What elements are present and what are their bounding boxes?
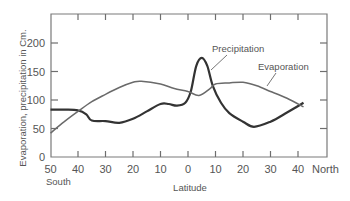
x-end-label-south: South — [46, 176, 71, 187]
axis-ticks — [51, 14, 327, 157]
precipitation-annotation: Precipitation — [212, 43, 264, 54]
y-axis-title: Evaporation, precipitation in Cm. — [17, 29, 28, 166]
x-end-label-north: North — [312, 163, 339, 175]
x-tick-label: 20 — [127, 163, 139, 175]
series-annotations: PrecipitationEvaporation — [211, 43, 309, 86]
evaporation-precipitation-chart: 5040302010010203040050100150200SouthNort… — [0, 0, 350, 201]
y-tick-label: 200 — [27, 37, 45, 49]
x-tick-label: 40 — [72, 163, 84, 175]
plot-frame — [51, 14, 327, 157]
x-tick-label: 50 — [44, 163, 56, 175]
evaporation-leader-line — [267, 73, 276, 86]
plot-border — [51, 14, 327, 157]
y-tick-label: 50 — [33, 123, 45, 135]
x-tick-label: 20 — [237, 163, 249, 175]
evaporation-annotation: Evaporation — [258, 61, 309, 72]
y-tick-label: 150 — [27, 66, 45, 78]
x-tick-label: 30 — [99, 163, 111, 175]
y-tick-label: 0 — [39, 151, 45, 163]
x-tick-label: 40 — [292, 163, 304, 175]
x-tick-label: 0 — [185, 163, 191, 175]
x-tick-label: 10 — [154, 163, 166, 175]
precipitation-leader-line — [211, 55, 227, 70]
x-tick-label: 30 — [264, 163, 276, 175]
x-tick-label: 10 — [209, 163, 221, 175]
y-tick-label: 100 — [27, 94, 45, 106]
x-axis-title: Latitude — [173, 182, 207, 193]
evaporation-line — [51, 81, 304, 133]
